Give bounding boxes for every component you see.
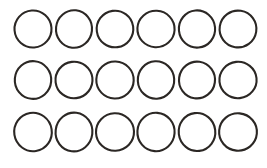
circle-shape bbox=[177, 9, 216, 49]
circle-shape bbox=[177, 111, 218, 153]
circle-shape bbox=[53, 111, 94, 154]
circle-grid-svg bbox=[0, 0, 267, 168]
circle-shape bbox=[137, 60, 175, 99]
circle-shape bbox=[218, 60, 259, 100]
circle-shape bbox=[11, 110, 54, 154]
circle-shape bbox=[53, 60, 94, 101]
circle-shape bbox=[218, 112, 259, 153]
circle-shape bbox=[136, 10, 175, 48]
circle-shape bbox=[136, 112, 176, 153]
circle-grid-canvas bbox=[0, 0, 267, 168]
circle-shape bbox=[94, 8, 135, 49]
circle-shape bbox=[13, 9, 52, 48]
circle-shape bbox=[177, 59, 218, 100]
circle-layer bbox=[11, 8, 259, 154]
circle-shape bbox=[95, 113, 134, 152]
circle-shape bbox=[54, 8, 94, 49]
circle-shape bbox=[217, 8, 259, 50]
circle-shape bbox=[96, 61, 135, 99]
circle-shape bbox=[13, 60, 53, 101]
